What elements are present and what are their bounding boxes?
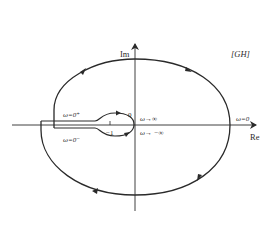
imag-axis-label: Im: [120, 49, 130, 59]
omega-to-inf-label: ω→∞: [140, 115, 157, 123]
omega-zero-label: ω=0: [236, 115, 250, 123]
direction-arrow-icon: [116, 111, 121, 116]
direction-arrow-icon: [124, 132, 130, 137]
omega-to-minus-inf-label: ω→ −∞: [140, 129, 163, 137]
real-axis-label: Re: [250, 132, 260, 142]
omega-zero-plus-label: ω=0⁺: [63, 111, 80, 119]
gh-tag: [GH]: [231, 49, 250, 59]
direction-arrow-icon: [80, 68, 86, 75]
nyquist-diagram: Im Re [GH] 0 −1 ω=0⁺ ω=0⁻ ω→∞ ω→ −∞ ω=0: [0, 0, 273, 227]
origin-label: 0: [128, 111, 132, 119]
minus-one-label: −1: [106, 129, 114, 137]
contour-lower-arc: [41, 121, 230, 195]
omega-zero-minus-label: ω=0⁻: [63, 136, 80, 144]
